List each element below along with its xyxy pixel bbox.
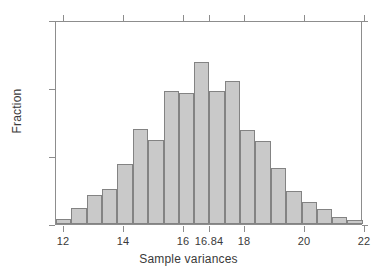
histogram-bar	[179, 93, 194, 224]
histogram-bar	[102, 189, 117, 224]
x-axis-tick-label: 14	[117, 235, 130, 247]
x-axis-top-tick-mark	[364, 15, 365, 21]
x-axis-top-tick-mark	[304, 15, 305, 21]
x-axis-top-tick-mark	[63, 15, 64, 21]
y-axis-tick-mark	[49, 225, 55, 226]
x-axis-tick-mark	[304, 226, 305, 232]
histogram-bar	[286, 191, 301, 224]
x-axis-tick-mark	[123, 226, 124, 232]
x-axis-tick-mark	[63, 226, 64, 232]
histogram-bar	[56, 219, 71, 224]
histogram-bar	[133, 129, 148, 224]
histogram-bar	[71, 208, 86, 224]
x-axis-tick-label: 12	[57, 235, 70, 247]
y-axis-right-tick-mark	[362, 21, 368, 22]
x-axis-tick-mark	[244, 226, 245, 232]
histogram-bar	[225, 81, 240, 224]
x-axis-top-tick-mark	[123, 15, 124, 21]
x-axis-tick-mark	[209, 226, 210, 232]
histogram-bar	[271, 168, 286, 224]
x-axis-top-tick-mark	[183, 15, 184, 21]
x-axis-tick-label: 18	[238, 235, 251, 247]
bar-series	[56, 22, 361, 224]
histogram-bar	[164, 91, 179, 224]
x-axis-tick-label: 22	[358, 235, 371, 247]
histogram-bar	[209, 91, 224, 224]
histogram-bar	[194, 62, 209, 224]
x-axis-top-tick-mark	[244, 15, 245, 21]
plot-area	[55, 21, 362, 225]
x-axis-tick-mark	[183, 226, 184, 232]
x-axis-tick-label: 16	[177, 235, 190, 247]
histogram-bar	[302, 202, 317, 224]
y-axis-right-tick-mark	[362, 225, 368, 226]
x-axis-top-tick-mark	[209, 15, 210, 21]
x-axis-tick-label: 20	[298, 235, 311, 247]
histogram-bar	[347, 220, 362, 224]
histogram-bar	[255, 141, 270, 224]
x-axis-tick-mark	[364, 226, 365, 232]
histogram-bar	[148, 140, 163, 224]
histogram-bar	[317, 209, 332, 224]
histogram-bar	[240, 130, 255, 224]
x-axis-tick-label: 16.84	[195, 235, 224, 247]
x-axis-title: Sample variances	[0, 252, 377, 266]
histogram-bar	[87, 195, 102, 224]
histogram-figure: Fraction 0.05.1.15 12141616.84182022 Sam…	[0, 0, 377, 279]
histogram-bar	[332, 217, 347, 224]
histogram-bar	[117, 164, 132, 224]
y-axis-title: Fraction	[10, 71, 24, 151]
